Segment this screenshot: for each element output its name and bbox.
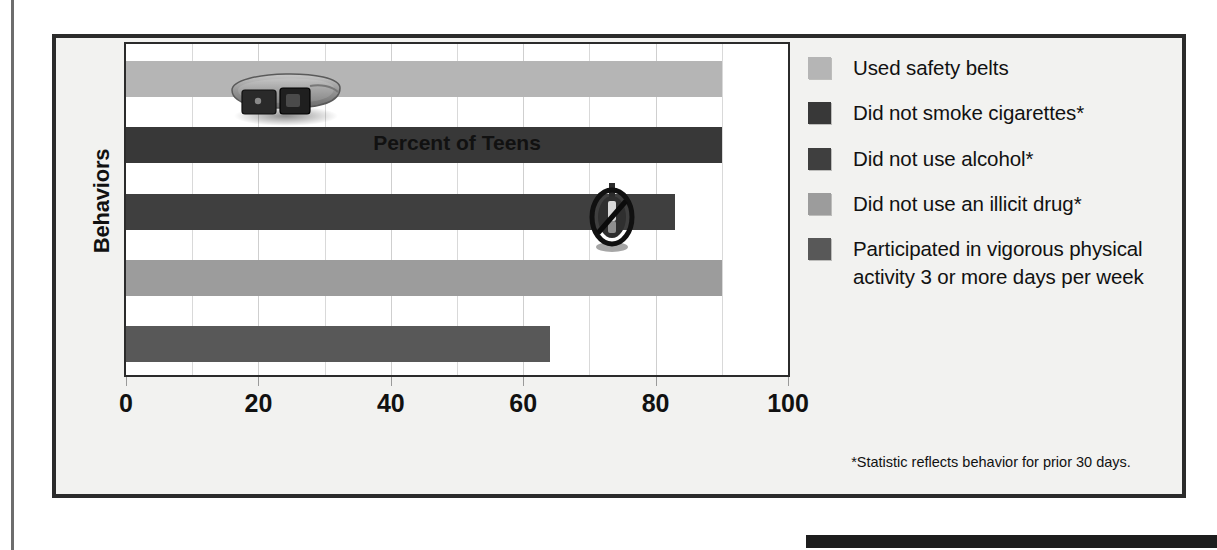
no-smoking-sign-icon: [584, 183, 640, 253]
x-tick-mark: [788, 377, 789, 386]
x-tick-label: 80: [642, 389, 670, 418]
legend-item-label: Used safety belts: [853, 54, 1009, 82]
legend-item[interactable]: Used safety belts: [808, 54, 1178, 82]
y-axis-title: Behaviors: [89, 141, 115, 261]
x-tick-mark: [656, 377, 657, 386]
seatbelt-photo-icon: [222, 60, 350, 126]
x-tick-mark: [523, 377, 524, 386]
legend-swatch-icon: [808, 193, 831, 215]
legend-item-label: Did not smoke cigarettes*: [853, 99, 1084, 127]
x-tick-mark: [391, 377, 392, 386]
legend-swatch-icon: [808, 238, 831, 260]
legend-swatch-icon: [808, 57, 831, 79]
chart-footnote: *Statistic reflects behavior for prior 3…: [798, 454, 1184, 470]
plot-area: [124, 42, 790, 377]
legend-item[interactable]: Did not use alcohol*: [808, 145, 1178, 173]
legend-item[interactable]: Did not smoke cigarettes*: [808, 99, 1178, 127]
legend-item-label: Participated in vigorous physical activi…: [853, 235, 1178, 292]
legend-item-label: Did not use an illicit drug*: [853, 190, 1082, 218]
legend-item-label: Did not use alcohol*: [853, 145, 1033, 173]
x-axis-ticks: 020406080100: [124, 377, 790, 393]
legend-swatch-icon: [808, 148, 831, 170]
x-tick-label: 40: [377, 389, 405, 418]
x-tick-mark: [258, 377, 259, 386]
x-tick-mark: [126, 377, 127, 386]
legend-swatch-icon: [808, 102, 831, 124]
legend-item[interactable]: Did not use an illicit drug*: [808, 190, 1178, 218]
chart-legend: Used safety beltsDid not smoke cigarette…: [808, 54, 1178, 309]
bar: [126, 61, 722, 97]
bar: [126, 260, 722, 296]
page-bottom-band: [806, 535, 1217, 548]
x-tick-label: 0: [119, 389, 133, 418]
legend-item[interactable]: Participated in vigorous physical activi…: [808, 235, 1178, 292]
x-tick-label: 20: [244, 389, 272, 418]
bar: [126, 326, 550, 362]
x-tick-label: 60: [509, 389, 537, 418]
chart-figure: Behaviors: [52, 34, 1186, 498]
page-left-rule: [11, 0, 14, 550]
x-tick-label: 100: [767, 389, 809, 418]
x-axis-title: Percent of Teens: [124, 131, 790, 155]
chart-plot-zone: Behaviors: [56, 38, 796, 494]
